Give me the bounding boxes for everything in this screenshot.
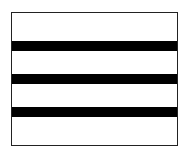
stripe-1 xyxy=(12,41,177,51)
striped-rectangle xyxy=(11,12,178,146)
stripe-2 xyxy=(12,74,177,84)
stripe-3 xyxy=(12,107,177,117)
